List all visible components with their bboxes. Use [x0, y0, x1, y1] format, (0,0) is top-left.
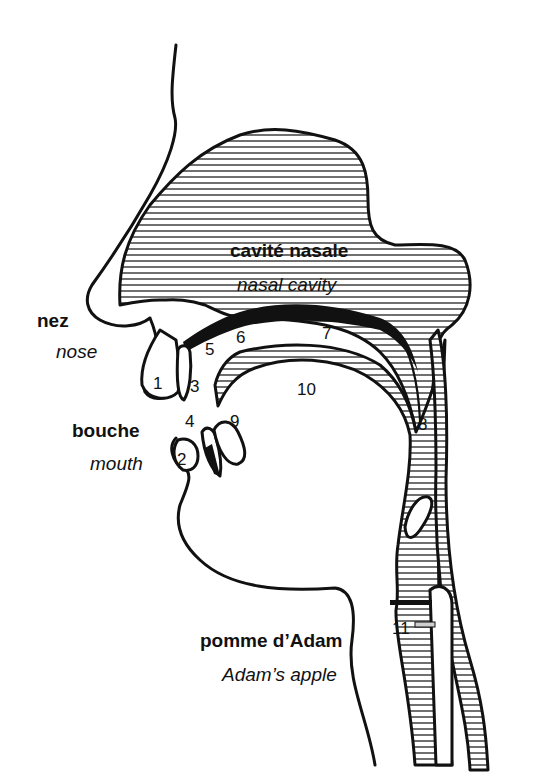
mouth-label-fr: bouche: [72, 420, 140, 441]
point-5: 5: [205, 340, 214, 359]
point-6: 6: [236, 328, 245, 347]
point-2: 2: [177, 450, 186, 469]
point-7: 7: [322, 324, 331, 343]
nasal-cavity-label-fr: cavité nasale: [230, 240, 348, 261]
point-3: 3: [190, 377, 199, 396]
vocal-cords-band: [390, 600, 432, 605]
mouth-label-en: mouth: [90, 453, 143, 474]
upper-teeth: [177, 346, 191, 400]
nasal-cavity-label-en: nasal cavity: [237, 274, 338, 295]
point-10: 10: [297, 380, 316, 399]
point-9: 9: [230, 412, 239, 431]
point-4: 4: [185, 412, 194, 431]
vocal-tract-diagram: cavité nasale nasal cavity nez nose bouc…: [0, 0, 557, 781]
point-11: 11: [392, 619, 410, 638]
vocal-cords-band-lower: [415, 622, 435, 627]
point-8: 8: [418, 415, 427, 434]
nose-label-en: nose: [56, 341, 97, 362]
nose-label-fr: nez: [37, 310, 69, 331]
adams-apple-label-fr: pomme d’Adam: [200, 630, 343, 651]
adams-apple-label-en: Adam’s apple: [221, 664, 337, 685]
point-1: 1: [153, 374, 162, 393]
